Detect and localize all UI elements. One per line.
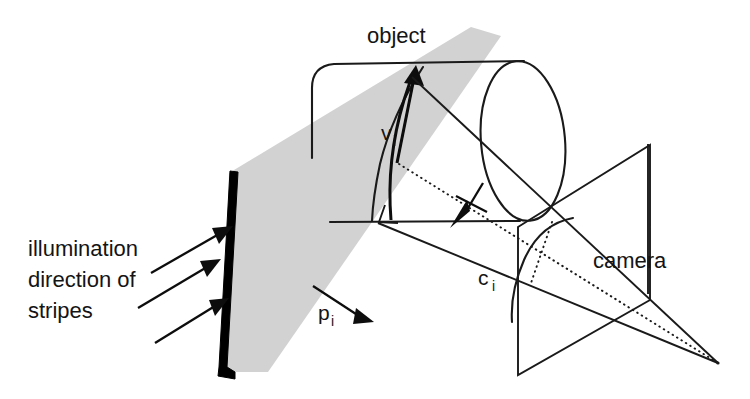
illumination-label-line1: illumination: [28, 236, 138, 261]
vector-p-subscript: i: [331, 313, 334, 329]
camera-label: camera: [593, 248, 667, 273]
vector-v-subscript: i: [393, 133, 396, 149]
illumination-label-line2: direction of: [28, 267, 137, 292]
illumination-direction-arrows: [138, 226, 233, 343]
diagram-canvas: object camera illumination direction of …: [0, 0, 750, 399]
technical-diagram-svg: object camera illumination direction of …: [0, 0, 750, 399]
illumination-label-line3: stripes: [28, 298, 93, 323]
vector-p-label: p i: [318, 301, 334, 329]
vector-c-subscript: i: [492, 278, 495, 294]
vector-v-glyph: v: [381, 121, 392, 144]
vector-p-glyph: p: [318, 301, 330, 324]
stripe-image-on-sensor: [512, 218, 573, 322]
object-label: object: [367, 23, 426, 48]
vector-c-glyph: c: [478, 266, 489, 289]
camera-projection-center: [716, 361, 719, 364]
